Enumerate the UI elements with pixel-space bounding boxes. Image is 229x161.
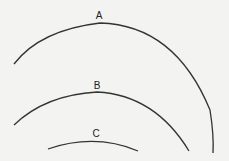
arc-c: [48, 141, 138, 151]
arc-b-label: B: [94, 80, 101, 91]
arc-a: [14, 23, 213, 153]
arc-diagram: A B C: [0, 0, 229, 161]
arc-c-label: C: [92, 128, 99, 139]
arc-a-label: A: [96, 10, 103, 21]
